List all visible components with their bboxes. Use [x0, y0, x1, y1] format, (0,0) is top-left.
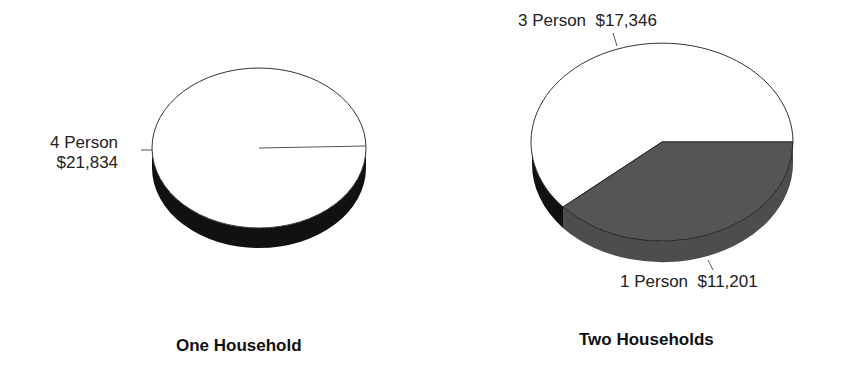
label-4-person-name: 4 Person — [50, 133, 118, 153]
chart-title-two-households: Two Households — [579, 330, 714, 350]
chart-title-one-household: One Household — [176, 336, 302, 356]
pie-one-household — [141, 68, 366, 248]
leader-line-1-person — [708, 260, 713, 270]
label-4-person-value: $21,834 — [50, 153, 118, 173]
label-4-person: 4 Person $21,834 — [50, 133, 118, 173]
leader-line-3-person — [613, 33, 617, 46]
pie-two-households — [531, 33, 793, 270]
pie-charts — [0, 0, 845, 380]
label-3-person: 3 Person $17,346 — [518, 11, 657, 31]
label-1-person: 1 Person $11,201 — [620, 272, 758, 292]
